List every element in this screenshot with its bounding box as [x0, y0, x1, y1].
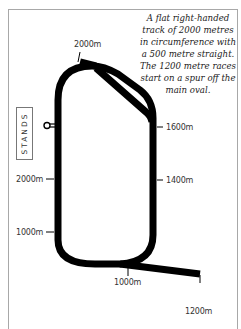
tick-top-spur: [78, 52, 80, 62]
stands-label: STANDS: [20, 112, 29, 154]
marker-bottom-1000m: 1000m: [114, 278, 141, 287]
marker-1600m: 1600m: [166, 123, 193, 132]
marker-left-2000m: 2000m: [16, 175, 43, 184]
marker-1400m: 1400m: [166, 176, 193, 185]
track-description: A flat right-handed track of 2000 metres…: [138, 12, 238, 96]
marker-left-1000m: 1000m: [16, 228, 43, 237]
stands-box: STANDS: [16, 107, 33, 160]
top-spur: [80, 62, 96, 66]
marker-bottom-1200m: 1200m: [185, 307, 212, 316]
bottom-spur: [120, 264, 200, 274]
marker-top-spur: 2000m: [74, 40, 101, 49]
